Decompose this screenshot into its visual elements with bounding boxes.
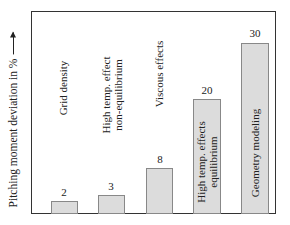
bar-value-label: 3 xyxy=(96,180,126,192)
bar-high-temp-non-equilibrium xyxy=(98,195,125,214)
category-label: Grid density xyxy=(57,33,69,143)
category-label: Viscous effects xyxy=(153,19,165,129)
bar-value-label: 8 xyxy=(145,153,175,165)
bar-value-label: 30 xyxy=(240,27,270,39)
y-axis-label: Pitching moment deviation in % xyxy=(1,20,25,220)
arrow-up-icon xyxy=(13,33,14,55)
y-axis-label-text: Pitching moment deviation in % xyxy=(7,59,19,208)
bar-value-label: 20 xyxy=(192,84,222,96)
bar-viscous-effects xyxy=(146,168,173,214)
bar-grid-density xyxy=(51,201,78,214)
category-label: High temp. effect non-equilibrium xyxy=(100,40,124,150)
bar-value-label: 2 xyxy=(49,186,79,198)
category-label: Geometry modeling xyxy=(249,98,261,208)
category-label: High temp. effects equilibrium xyxy=(195,107,219,217)
